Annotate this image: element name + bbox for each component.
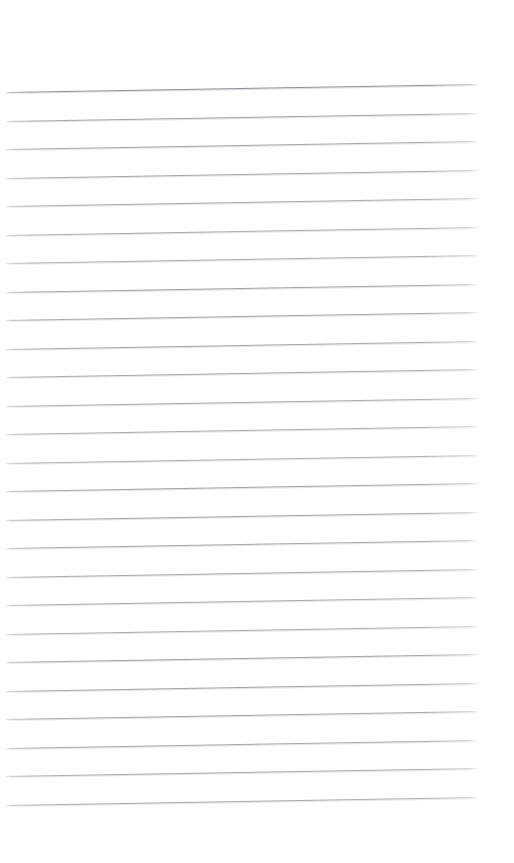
ruled-lines-layer [0, 0, 514, 863]
rule-line [5, 170, 480, 179]
scanned-page [0, 0, 514, 863]
rule-line [5, 512, 480, 521]
rule-line [5, 84, 480, 93]
rule-line [5, 768, 480, 777]
rule-line [5, 312, 480, 321]
rule-line [5, 113, 480, 122]
rule-line [5, 369, 480, 378]
rule-line [5, 711, 480, 720]
rule-line [5, 141, 480, 150]
rule-line [5, 227, 480, 236]
rule-line [5, 398, 480, 407]
rule-line [5, 255, 480, 264]
rule-line [5, 483, 480, 492]
rule-line [5, 341, 480, 350]
rule-line [5, 569, 480, 578]
rule-line [5, 198, 480, 207]
rule-line [5, 455, 480, 464]
rule-line [5, 426, 480, 435]
rule-line [5, 284, 480, 293]
rule-line [5, 597, 480, 606]
rule-line [5, 540, 480, 549]
rule-line [5, 683, 480, 692]
rule-line [5, 740, 480, 749]
rule-line [5, 626, 480, 635]
rule-line [5, 654, 480, 663]
rule-line [5, 797, 480, 806]
